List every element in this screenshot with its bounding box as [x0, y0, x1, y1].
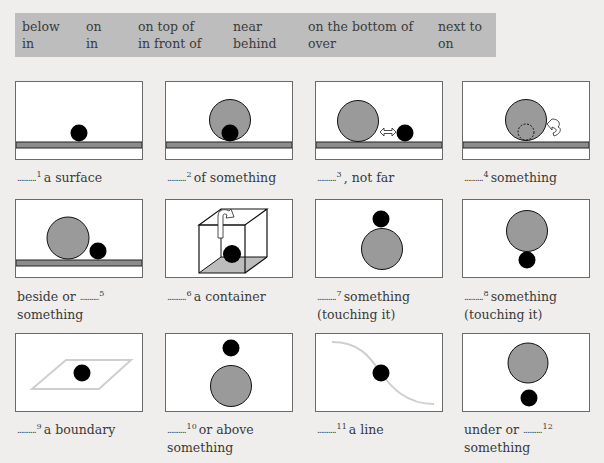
answer-blank[interactable]: .......... — [80, 292, 99, 302]
answer-blank[interactable]: .......... — [17, 425, 36, 435]
word-bank-word: on — [438, 35, 482, 52]
caption-text: a surface — [44, 170, 102, 185]
answer-blank[interactable]: .......... — [464, 292, 483, 302]
word-bank-column: below in — [22, 18, 60, 52]
ball-on-line-icon — [316, 334, 442, 411]
item-number: 9 — [37, 422, 42, 431]
caption-5: beside or ..........5 something — [17, 285, 106, 323]
word-bank-word: next to — [438, 18, 482, 35]
caption-3: ..........3, not far — [317, 166, 394, 187]
ball-below-circle-icon — [463, 334, 589, 411]
caption-line2: something — [167, 439, 254, 456]
ball-in-area-icon — [16, 334, 142, 411]
item-number: 8 — [484, 289, 489, 298]
caption-line2: (touching it) — [464, 306, 557, 323]
ball-in-front-of-circle-icon — [166, 82, 292, 159]
caption-text: , not far — [344, 170, 395, 185]
caption-line2: (touching it) — [317, 306, 410, 323]
ball-on-surface-icon — [16, 82, 142, 159]
item-number: 2 — [187, 170, 192, 179]
word-bank-column: on the bottom of over — [308, 18, 413, 52]
word-bank-word: on — [86, 18, 102, 35]
item-number: 3 — [337, 170, 342, 179]
illustration-next-to — [15, 199, 143, 278]
item-number: 11 — [337, 422, 347, 431]
word-bank-word: in — [22, 35, 60, 52]
word-bank-word: in front of — [138, 35, 201, 52]
caption-2: ..........2of something — [167, 166, 276, 187]
answer-blank[interactable]: .......... — [17, 173, 36, 183]
word-bank-column: near behind — [233, 18, 277, 52]
item-number: 7 — [337, 289, 342, 298]
ball-in-box-icon — [166, 200, 292, 277]
illustration-behind — [462, 81, 590, 160]
word-bank-word: in — [86, 35, 102, 52]
answer-blank[interactable]: .......... — [317, 292, 336, 302]
item-number: 6 — [187, 289, 192, 298]
illustration-in — [165, 199, 293, 278]
word-bank-word: over — [308, 35, 413, 52]
answer-blank[interactable]: .......... — [167, 173, 186, 183]
illustration-below — [462, 333, 590, 412]
caption-text: or above — [199, 422, 254, 437]
caption-text: of something — [194, 170, 276, 185]
word-bank-word: behind — [233, 35, 277, 52]
item-number: 1 — [37, 170, 42, 179]
caption-text: a line — [349, 422, 384, 437]
word-bank-word: near — [233, 18, 277, 35]
caption-text: something — [344, 289, 410, 304]
illustration-on-the-bottom-of — [462, 199, 590, 278]
item-number: 12 — [543, 422, 553, 431]
illustration-in-front-of — [165, 81, 293, 160]
caption-text: a boundary — [44, 422, 116, 437]
word-bank: below in on in on top of in front of nea… — [15, 13, 496, 57]
word-bank-word: on top of — [138, 18, 201, 35]
answer-blank[interactable]: .......... — [464, 173, 483, 183]
caption-9: ..........9a boundary — [17, 418, 115, 439]
ball-over-circle-icon — [166, 334, 292, 411]
illustration-on-line — [315, 333, 443, 412]
item-number: 4 — [484, 170, 489, 179]
ball-next-to-circle-icon — [16, 200, 142, 277]
ball-near-circle-icon — [316, 82, 442, 159]
caption-line2: something — [17, 306, 106, 323]
caption-11: ..........11a line — [317, 418, 384, 439]
answer-blank[interactable]: .......... — [523, 425, 542, 435]
word-bank-word: on the bottom of — [308, 18, 413, 35]
answer-blank[interactable]: .......... — [317, 425, 336, 435]
illustration-on-top-of — [315, 199, 443, 278]
illustration-over — [165, 333, 293, 412]
caption-10: ..........10or above something — [167, 418, 254, 456]
caption-text: something — [491, 289, 557, 304]
caption-line2: something — [464, 439, 555, 456]
word-bank-column: on in — [86, 18, 102, 52]
caption-text: beside or — [17, 289, 76, 304]
caption-text: a container — [194, 289, 266, 304]
word-bank-column: next to on — [438, 18, 482, 52]
caption-8: ..........8something (touching it) — [464, 285, 557, 323]
item-number: 10 — [187, 422, 197, 431]
illustration-in-boundary — [15, 333, 143, 412]
ball-on-bottom-of-circle-icon — [463, 200, 589, 277]
answer-blank[interactable]: .......... — [167, 292, 186, 302]
caption-6: ..........6a container — [167, 285, 266, 306]
illustration-near — [315, 81, 443, 160]
caption-1: ..........1a surface — [17, 166, 102, 187]
caption-7: ..........7something (touching it) — [317, 285, 410, 323]
answer-blank[interactable]: .......... — [317, 173, 336, 183]
word-bank-word: below — [22, 18, 60, 35]
item-number: 5 — [99, 289, 104, 298]
caption-12: under or ..........12 something — [464, 418, 555, 456]
ball-behind-circle-icon — [463, 82, 589, 159]
illustration-on-surface — [15, 81, 143, 160]
caption-text: something — [491, 170, 557, 185]
word-bank-column: on top of in front of — [138, 18, 201, 52]
ball-on-top-of-circle-icon — [316, 200, 442, 277]
answer-blank[interactable]: .......... — [167, 425, 186, 435]
caption-4: ..........4something — [464, 166, 557, 187]
caption-text: under or — [464, 422, 519, 437]
